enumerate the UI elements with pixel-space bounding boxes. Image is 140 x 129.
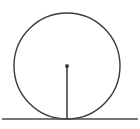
geometry-figure xyxy=(0,0,140,129)
center-point-marker xyxy=(65,64,68,67)
diagram-background xyxy=(0,0,140,129)
diagram-canvas xyxy=(0,0,140,129)
